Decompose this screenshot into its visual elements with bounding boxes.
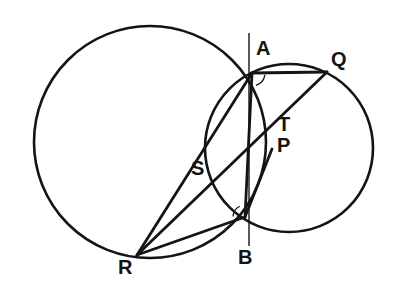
- point-label-S: S: [191, 158, 204, 178]
- point-label-T: T: [278, 114, 290, 134]
- point-label-A: A: [256, 38, 270, 58]
- geometry-figure: [0, 0, 403, 290]
- segments-group: [137, 72, 327, 255]
- line-RQ-through-S-T: [137, 72, 327, 255]
- chord-AQ: [252, 72, 327, 73]
- diagram-canvas: AQTPSBR: [0, 0, 403, 290]
- point-label-P: P: [277, 135, 290, 155]
- point-label-Q: Q: [331, 49, 347, 69]
- angle-marker-at-A: [256, 75, 265, 86]
- point-label-R: R: [118, 257, 132, 277]
- circles-group: [34, 26, 373, 258]
- point-label-B: B: [238, 247, 252, 267]
